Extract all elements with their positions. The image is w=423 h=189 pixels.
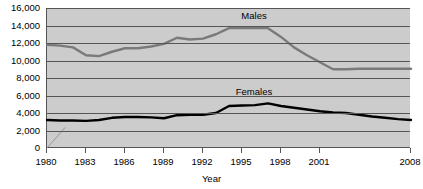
y-axis-tick-label: 4,000 — [0, 108, 40, 118]
y-axis-tick-label: 0 — [0, 143, 40, 153]
x-axis-tick-label: 1998 — [269, 156, 290, 167]
y-axis-tick-label: 6,000 — [0, 91, 40, 101]
x-axis-tick-label: 1992 — [191, 156, 212, 167]
x-axis-tick — [85, 148, 86, 153]
x-axis-tick-label: 2008 — [399, 156, 420, 167]
gridline — [47, 8, 410, 9]
series-line-males — [47, 28, 411, 69]
x-axis-tick — [202, 148, 203, 153]
gridline — [47, 26, 410, 27]
x-axis-tick-label: 1986 — [113, 156, 134, 167]
gridline — [47, 61, 410, 62]
y-axis-tick-label: 16,000 — [0, 3, 40, 13]
y-axis-tick-label: 14,000 — [0, 21, 40, 31]
x-axis-tick-label: 1995 — [230, 156, 251, 167]
x-axis-tick-label: 1989 — [152, 156, 173, 167]
x-axis-tick — [280, 148, 281, 153]
y-axis-tick-label: 8,000 — [0, 73, 40, 83]
gridline — [47, 113, 410, 114]
x-axis-tick-label: 2001 — [308, 156, 329, 167]
x-axis-tick — [241, 148, 242, 153]
y-axis-tick-label: 2,000 — [0, 126, 40, 136]
y-axis-tick-label: 12,000 — [0, 38, 40, 48]
series-label-females: Females — [236, 86, 272, 97]
x-axis-tick — [319, 148, 320, 153]
x-axis-labels: 198019831986198919921995199820012008 — [0, 156, 423, 170]
plot-area — [46, 8, 410, 148]
gridline — [47, 96, 410, 97]
gridline — [47, 131, 410, 132]
gridline — [47, 43, 410, 44]
series-label-males: Males — [241, 10, 266, 21]
x-axis-tick-label: 1980 — [35, 156, 56, 167]
gridline — [47, 78, 410, 79]
x-axis-tick — [46, 148, 47, 153]
x-axis-tick — [163, 148, 164, 153]
y-axis-tick-label: 10,000 — [0, 56, 40, 66]
x-axis-ticks — [46, 148, 410, 156]
x-axis-tick — [124, 148, 125, 153]
chart-container: 02,0004,0006,0008,00010,00012,00014,0001… — [0, 0, 423, 189]
x-axis-tick-label: 1983 — [74, 156, 95, 167]
x-axis-title: Year — [0, 173, 423, 184]
x-axis-tick — [410, 148, 411, 153]
